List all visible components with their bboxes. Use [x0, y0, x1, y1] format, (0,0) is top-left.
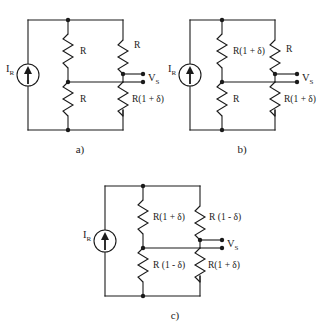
junction-node: [121, 72, 125, 76]
output-terminal: [141, 80, 145, 84]
resistor-label-top-right-a: R: [134, 40, 141, 50]
output-label-c: VS: [227, 238, 239, 252]
output-terminal: [295, 80, 299, 84]
junction-node: [273, 72, 277, 76]
caption-b: b): [222, 143, 262, 155]
circuit-figure: IR R R R R(1 + δ) VS: [0, 0, 330, 335]
resistor-label-top-middle-a: R: [80, 46, 87, 56]
caption-a: a): [60, 143, 100, 155]
source-label-b: IR: [168, 63, 177, 77]
output-terminal: [141, 72, 145, 76]
junction-node: [220, 18, 224, 22]
output-label-b: VS: [302, 72, 314, 86]
junction-node: [66, 18, 70, 22]
junction-node: [198, 238, 202, 242]
resistor-label-bottom-right-b: R(1 + δ): [284, 94, 316, 105]
junction-node: [66, 80, 70, 84]
junction-node: [141, 184, 145, 188]
resistor-icon-top-right-a: [118, 40, 128, 74]
resistor-label-bottom-middle-a: R: [80, 94, 87, 104]
source-label-a: IR: [6, 63, 15, 77]
resistor-icon-bottom-middle-b: [217, 82, 227, 116]
junction-node: [66, 128, 70, 132]
resistor-label-bottom-middle-c: R (1 - δ): [153, 260, 185, 271]
resistor-label-top-middle-c: R(1 + δ): [153, 212, 185, 223]
output-label-a: VS: [148, 72, 160, 86]
resistor-label-bottom-right-a: R(1 + δ): [132, 94, 164, 105]
resistor-icon-top-right-b: [270, 40, 280, 74]
caption-c: c): [155, 309, 195, 321]
resistor-icon-top-right-c: [195, 206, 205, 240]
output-terminal: [295, 72, 299, 76]
resistor-icon-top-middle-c: [138, 200, 148, 234]
junction-node: [220, 128, 224, 132]
output-terminal: [220, 238, 224, 242]
resistor-label-top-middle-b: R(1 + δ): [233, 46, 265, 57]
resistor-label-top-right-b: R: [286, 44, 293, 54]
circuit-b: IR R(1 + δ) R R R(1 + δ) VS: [180, 12, 320, 137]
junction-node: [220, 80, 224, 84]
resistor-label-top-right-c: R (1 - δ): [209, 212, 241, 223]
circuit-a: IR R R R R(1 + δ) VS: [18, 12, 158, 137]
source-label-c: IR: [83, 229, 92, 243]
junction-node: [141, 294, 145, 298]
resistor-icon-bottom-middle-a: [63, 82, 73, 116]
resistor-icon-top-middle-b: [217, 34, 227, 68]
output-terminal: [220, 246, 224, 250]
circuit-c: IR R(1 + δ) R (1 - δ) R (1 - δ) R(1 + δ)…: [95, 178, 245, 303]
resistor-icon-top-middle-a: [63, 34, 73, 68]
junction-node: [141, 246, 145, 250]
resistor-label-bottom-middle-b: R: [233, 94, 240, 104]
resistor-label-bottom-right-c: R(1 + δ): [208, 260, 240, 271]
resistor-icon-bottom-middle-c: [138, 248, 148, 282]
